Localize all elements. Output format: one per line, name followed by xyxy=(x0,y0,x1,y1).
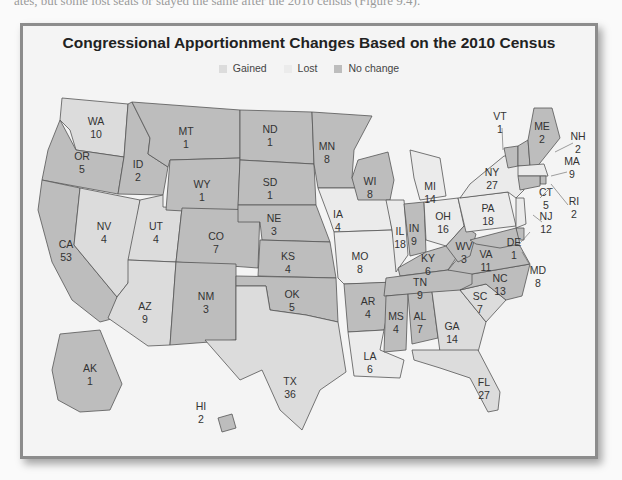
state-abbr: NV xyxy=(97,220,112,232)
state-seats: 5 xyxy=(289,301,295,313)
state-seats: 18 xyxy=(394,238,406,250)
state-abbr: OH xyxy=(435,210,451,222)
state-abbr: LA xyxy=(364,350,377,362)
state-nj xyxy=(516,198,526,228)
state-abbr: TX xyxy=(283,375,296,387)
state-abbr: IL xyxy=(396,225,405,237)
state-seats: 8 xyxy=(357,263,363,275)
state-abbr: MS xyxy=(388,310,404,322)
state-abbr: ID xyxy=(133,158,144,170)
state-abbr: OR xyxy=(74,150,90,162)
state-abbr: HI xyxy=(196,400,207,412)
state-abbr: SC xyxy=(473,290,488,302)
state-abbr: AL xyxy=(414,310,427,322)
state-abbr: OK xyxy=(284,288,299,300)
state-seats: 9 xyxy=(417,289,423,301)
state-seats: 1 xyxy=(267,136,273,148)
state-seats: 27 xyxy=(486,179,498,191)
state-abbr: SD xyxy=(263,176,278,188)
state-seats: 6 xyxy=(367,363,373,375)
state-abbr: MA xyxy=(564,155,580,167)
state-seats: 5 xyxy=(79,163,85,175)
state-abbr: UT xyxy=(149,220,164,232)
state-abbr: AZ xyxy=(138,300,152,312)
state-abbr: GA xyxy=(444,320,459,332)
state-seats: 10 xyxy=(90,128,102,140)
state-abbr: MN xyxy=(319,140,335,152)
state-seats: 12 xyxy=(540,223,552,235)
state-seats: 14 xyxy=(446,333,458,345)
state-seats: 7 xyxy=(477,303,483,315)
state-ct xyxy=(518,176,540,190)
state-seats: 7 xyxy=(417,323,423,335)
state-seats: 2 xyxy=(539,133,545,145)
state-abbr: WI xyxy=(364,175,377,187)
state-seats: 1 xyxy=(199,191,205,203)
state-abbr: WY xyxy=(194,178,211,190)
state-seats: 8 xyxy=(535,277,541,289)
state-abbr: KY xyxy=(421,252,435,264)
state-seats: 2 xyxy=(198,413,204,425)
state-seats: 8 xyxy=(367,188,373,200)
state-seats: 2 xyxy=(135,171,141,183)
state-abbr: RI xyxy=(569,195,580,207)
caption-fragment: ates, but some lost seats or stayed the … xyxy=(14,0,420,9)
state-hi xyxy=(218,414,236,432)
state-abbr: NH xyxy=(570,130,585,142)
state-abbr: ME xyxy=(534,120,550,132)
state-seats: 4 xyxy=(365,308,371,320)
state-seats: 3 xyxy=(203,303,209,315)
state-abbr: MT xyxy=(178,125,194,137)
state-seats: 11 xyxy=(481,261,492,273)
state-seats: 4 xyxy=(285,263,291,275)
state-abbr: MD xyxy=(530,264,547,276)
state-seats: 2 xyxy=(571,208,577,220)
state-seats: 4 xyxy=(393,323,399,335)
state-ri xyxy=(540,176,546,184)
state-seats: 1 xyxy=(87,375,93,387)
state-seats: 36 xyxy=(284,388,296,400)
state-abbr: MI xyxy=(424,180,436,192)
state-abbr: NY xyxy=(485,166,500,178)
state-abbr: NJ xyxy=(540,210,553,222)
state-abbr: KS xyxy=(281,250,295,262)
state-abbr: AR xyxy=(361,295,376,307)
state-abbr: IA xyxy=(333,208,343,220)
state-abbr: DE xyxy=(507,236,522,248)
state-seats: 3 xyxy=(461,253,467,265)
state-abbr: AK xyxy=(83,362,97,374)
state-abbr: VT xyxy=(493,110,507,122)
state-seats: 9 xyxy=(569,168,575,180)
state-seats: 53 xyxy=(60,251,72,263)
state-seats: 3 xyxy=(271,225,277,237)
state-seats: 16 xyxy=(437,223,449,235)
state-seats: 1 xyxy=(511,249,517,261)
state-abbr: MO xyxy=(352,250,369,262)
state-seats: 7 xyxy=(213,243,219,255)
state-seats: 4 xyxy=(153,233,159,245)
state-ma xyxy=(518,164,548,176)
state-nd xyxy=(240,110,314,164)
map-figure: Congressional Apportionment Changes Base… xyxy=(20,23,598,459)
state-abbr: PA xyxy=(481,202,494,214)
state-abbr: NC xyxy=(492,272,508,284)
state-abbr: NE xyxy=(267,212,282,224)
state-abbr: TN xyxy=(413,276,427,288)
state-seats: 4 xyxy=(101,233,107,245)
us-map: WA10OR5CA53ID2NV4UT4AZ9MT1WY1CO7NM3ND1SD… xyxy=(23,26,595,456)
state-abbr: VA xyxy=(479,248,492,260)
state-seats: 14 xyxy=(424,193,436,205)
state-abbr: IN xyxy=(409,222,420,234)
state-seats: 2 xyxy=(575,143,581,155)
state-seats: 1 xyxy=(183,138,189,150)
state-abbr: WA xyxy=(88,115,105,127)
state-seats: 9 xyxy=(411,235,417,247)
state-abbr: CO xyxy=(208,230,224,242)
state-abbr: ND xyxy=(262,123,278,135)
state-ks xyxy=(258,240,336,278)
state-seats: 9 xyxy=(142,313,148,325)
state-seats: 4 xyxy=(335,221,341,233)
state-abbr: FL xyxy=(478,376,490,388)
state-seats: 13 xyxy=(494,285,506,297)
state-seats: 18 xyxy=(482,215,494,227)
